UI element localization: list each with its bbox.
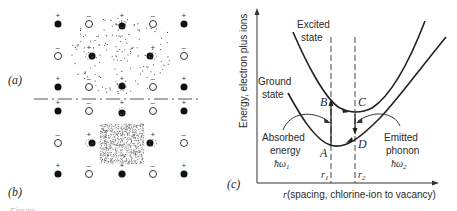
negative-ion [86,84,93,91]
negative-ion [55,53,62,60]
emitted-pointer-arrow-icon [356,118,363,123]
ion-charge-sign: – [182,130,187,139]
ion-charge-sign: + [120,11,125,20]
ion-charge-sign: + [151,43,156,52]
ground-state-curve [288,37,446,146]
negative-ion [55,140,62,147]
positive-ion [147,53,154,60]
ion-charge-sign: – [87,11,92,20]
absorbed-hbar-omega: ħω1 [274,158,290,171]
ground-label-line1: Ground [258,76,291,87]
ion-charge-sign: + [151,130,156,139]
positive-ion [119,23,126,30]
absorbed-label-line2: energy [270,145,301,156]
point-A-label: A [319,146,328,160]
ion-charge-sign: – [151,161,156,170]
negative-ion [150,171,157,178]
y-axis-label: Energy, electron plus ions [238,14,249,128]
ion-charge-sign: – [87,74,92,83]
ion-charge-sign: + [120,74,125,83]
negative-ion [86,108,93,115]
ion-charge-sign: + [56,161,61,170]
ion-charge-sign: + [56,11,61,20]
point-C-label: C [358,95,367,109]
emission-arrow-icon [353,128,358,135]
ion-charge-sign: + [87,130,92,139]
ion-charge-sign: – [182,43,187,52]
ion-charge-sign: + [120,98,125,107]
excited-label-line2: state [301,32,323,43]
emitted-hbar-omega: ħω2 [391,158,407,171]
positive-ion [181,171,188,178]
panel-label-a: (a) [8,73,22,87]
emitted-label-line1: Emitted [384,132,418,143]
localized-electron-cloud [100,124,145,165]
positive-ion [89,53,96,60]
negative-ion [181,140,188,147]
y-axis-arrow-icon [255,8,260,15]
positive-ion [89,140,96,147]
x-axis-arrow-icon [432,181,439,186]
point-B-label: B [320,95,328,109]
absorbed-label-line1: Absorbed [262,132,305,143]
positive-ion [181,108,188,115]
positive-ion [181,84,188,91]
ion-charge-sign: + [87,43,92,52]
ion-charge-sign: + [182,74,187,83]
ion-charge-sign: + [56,74,61,83]
negative-ion [150,108,157,115]
positive-ion [55,21,62,28]
positive-ion [181,21,188,28]
ground-label-line2: state [262,89,284,100]
ion-charge-sign: + [182,161,187,170]
ion-charge-sign: – [56,43,61,52]
point-D-label: D [357,137,367,151]
r2-label: r2 [358,169,366,182]
positive-ion [119,110,126,117]
r1-label: r1 [321,169,328,182]
configuration-coordinate-chart: Energy, electron plus ions Excited state… [238,8,446,200]
positive-ion [55,84,62,91]
absorbed-pointer-arrow-icon [324,118,331,123]
positive-ion [55,171,62,178]
negative-ion [86,21,93,28]
ion-charge-sign: + [182,11,187,20]
negative-ion [150,84,157,91]
x-axis-label: r(spacing, chlorine-ion to vacancy) [283,189,436,200]
ion-charge-sign: – [56,130,61,139]
positive-ion [55,108,62,115]
emitted-label-line2: phonon [386,145,419,156]
negative-ion [86,171,93,178]
ion-charge-sign: – [87,161,92,170]
positive-ion [147,140,154,147]
figure-canvas: +–+–+–++–+–+–++–+–+–++–+–+–+ (a) (b) (c)… [0,0,457,211]
ion-charge-sign: – [151,11,156,20]
panel-label-c: (c) [227,177,240,191]
negative-ion [181,53,188,60]
ion-charge-sign: + [120,161,125,170]
ion-charge-sign: – [151,74,156,83]
figure-caption: Figure [10,206,36,211]
panel-label-b: (b) [8,185,22,199]
negative-ion [150,21,157,28]
excited-label-line1: Excited [297,19,330,30]
